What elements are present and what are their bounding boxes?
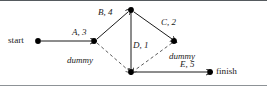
node-n4[interactable]: [128, 69, 134, 75]
node-n3[interactable]: [171, 38, 177, 44]
edge-label-e: E, 5: [180, 60, 195, 69]
edge-label-dummy-left: dummy: [67, 56, 93, 65]
node-label-start: start: [8, 36, 24, 45]
edge-label-c: C, 2: [161, 18, 176, 27]
node-finish[interactable]: [207, 69, 213, 75]
edge-label-d: D, 1: [133, 41, 149, 50]
node-label-finish: finish: [216, 67, 237, 76]
node-start[interactable]: [35, 38, 41, 44]
edge-label-a: A, 3: [72, 28, 87, 37]
edge-label-dummy-right: dummy: [169, 52, 195, 61]
edge-label-b: B, 4: [98, 8, 113, 17]
network-diagram-figure: start finish A, 3 B, 4 C, 2 D, 1 E, 5 du…: [0, 0, 267, 86]
node-n2[interactable]: [128, 7, 134, 13]
node-n1[interactable]: [91, 38, 97, 44]
edge-dummy-left: [97, 43, 128, 70]
